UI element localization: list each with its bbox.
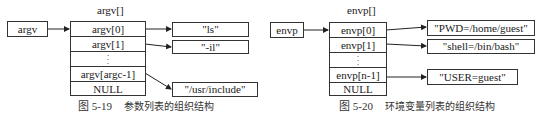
argv-caption: 图 5-19参数列表的组织结构 bbox=[78, 101, 214, 112]
argv-pointer-box: argv bbox=[7, 21, 48, 37]
argv-caption-text: 参数列表的组织结构 bbox=[124, 101, 214, 112]
argv-target-ls: "ls" bbox=[172, 22, 249, 37]
envp-array: envp[0] envp[1] ··· envp[n-1] NULL bbox=[329, 22, 387, 96]
envp-caption-text: 环境变量列表的组织结构 bbox=[385, 101, 495, 112]
vertical-ellipsis-icon: ··· bbox=[107, 53, 110, 65]
envp-array-label: envp[] bbox=[347, 5, 376, 16]
envp-caption: 图 5-20环境变量列表的组织结构 bbox=[339, 101, 495, 112]
argv-caption-number: 图 5-19 bbox=[78, 100, 112, 112]
argv-target-il: "-il" bbox=[172, 40, 249, 54]
envp-pointer-label: envp bbox=[276, 25, 297, 36]
envp-target-user: "USER=guest" bbox=[427, 69, 518, 85]
argv-cell-0: argv[0] bbox=[71, 22, 145, 37]
envp-target-user-text: "USER=guest" bbox=[439, 72, 506, 83]
envp-target-shell-text: "shell=/bin/bash" bbox=[443, 41, 519, 52]
envp-ellipsis: ··· bbox=[330, 53, 386, 68]
envp-cell-null: NULL bbox=[330, 83, 386, 96]
argv-ellipsis: ··· bbox=[71, 52, 145, 67]
argv-array-label: argv[] bbox=[97, 5, 124, 16]
envp-cell-0: envp[0] bbox=[330, 23, 386, 38]
envp-target-pwd-text: "PWD=/home/guest" bbox=[434, 23, 527, 34]
envp-target-pwd: "PWD=/home/guest" bbox=[427, 20, 535, 36]
envp-pointer-box: envp bbox=[270, 22, 304, 38]
vertical-ellipsis-icon: ··· bbox=[357, 54, 360, 66]
argv-pointer-label: argv bbox=[18, 24, 37, 35]
argv-array: argv[0] argv[1] ··· argv[argc-1] NULL bbox=[70, 21, 146, 96]
argv-target-usr-include-text: "/usr/include" bbox=[185, 84, 246, 95]
argv-target-usr-include: "/usr/include" bbox=[172, 82, 258, 97]
argv-cell-null: NULL bbox=[71, 82, 145, 96]
argv-cell-last: argv[argc-1] bbox=[71, 67, 145, 82]
envp-caption-number: 图 5-20 bbox=[339, 100, 373, 112]
argv-target-ls-text: "ls" bbox=[202, 24, 218, 35]
envp-target-shell: "shell=/bin/bash" bbox=[427, 39, 535, 54]
argv-target-il-text: "-il" bbox=[201, 42, 220, 53]
envp-cell-last: envp[n-1] bbox=[330, 68, 386, 83]
